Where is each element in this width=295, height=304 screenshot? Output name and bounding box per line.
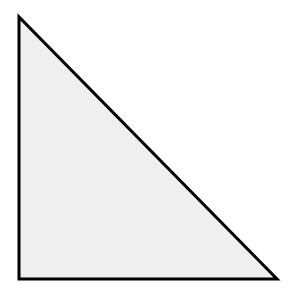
- diagram-canvas: [0, 0, 295, 304]
- right-triangle: [19, 17, 277, 279]
- triangle-svg: [0, 0, 295, 304]
